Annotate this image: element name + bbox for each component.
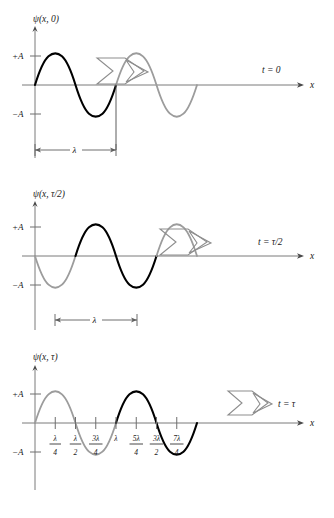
propagation-arrow-right bbox=[228, 391, 272, 415]
svg-text:4: 4 bbox=[175, 448, 179, 457]
svg-text:4: 4 bbox=[53, 448, 57, 457]
panel-2-time-label: t = τ bbox=[278, 399, 296, 409]
panel-2-x-tick-label-1: λ 2 bbox=[70, 434, 82, 457]
propagation-arrow-right bbox=[160, 229, 211, 255]
svg-text:2: 2 bbox=[155, 448, 159, 457]
svg-text:7λ: 7λ bbox=[173, 434, 181, 443]
svg-text:2: 2 bbox=[74, 448, 78, 457]
panel-1-y-axis-label: ψ(x, τ/2) bbox=[33, 189, 65, 200]
svg-text:λ: λ bbox=[53, 434, 58, 443]
panel-1-wavelength-label: λ bbox=[92, 315, 97, 325]
svg-text:λ: λ bbox=[113, 434, 118, 443]
panel-0-label-plus-a: +A bbox=[12, 51, 24, 61]
svg-text:3λ: 3λ bbox=[91, 434, 100, 443]
svg-text:5λ: 5λ bbox=[133, 434, 141, 443]
panel-2-label-minus-a: −A bbox=[12, 447, 24, 457]
panel-1-label-plus-a: +A bbox=[12, 222, 24, 232]
svg-text:3λ: 3λ bbox=[152, 434, 161, 443]
panel-0-wavelength-bracket: λ bbox=[35, 144, 116, 156]
panel-2-x-tick-label-4: 5λ 4 bbox=[130, 434, 144, 457]
panel-0-y-axis-label: ψ(x, 0) bbox=[33, 14, 59, 25]
panel-0-x-axis-label: x bbox=[309, 80, 315, 90]
panel-1-wave-leading bbox=[35, 256, 76, 288]
panel-0-time-label: t = 0 bbox=[262, 65, 281, 75]
panel-t-tau: ψ(x, τ) x +A −A bbox=[0, 345, 334, 518]
svg-text:4: 4 bbox=[134, 448, 138, 457]
panel-2-x-tick-label-0: λ 4 bbox=[50, 434, 62, 457]
panel-t-half-tau: ψ(x, τ/2) x +A −A λ bbox=[0, 175, 334, 345]
panel-t0: ψ(x, 0) x +A −A λ bbox=[0, 0, 334, 175]
panel-2-x-tick-label-3: λ bbox=[113, 434, 118, 443]
panel-1-time-label: t = τ/2 bbox=[258, 237, 283, 247]
panel-0-wavelength-label: λ bbox=[72, 145, 77, 155]
panel-1-wavelength-bracket: λ bbox=[55, 314, 137, 326]
panel-2-label-plus-a: +A bbox=[12, 389, 24, 399]
panel-1-x-axis-label: x bbox=[309, 251, 315, 261]
panel-1-label-minus-a: −A bbox=[12, 280, 24, 290]
svg-text:λ: λ bbox=[73, 434, 78, 443]
panel-2-x-axis-label: x bbox=[309, 418, 315, 428]
panel-0-label-minus-a: −A bbox=[12, 109, 24, 119]
propagation-arrow-right bbox=[97, 58, 148, 84]
panel-2-y-axis-label: ψ(x, τ) bbox=[33, 352, 58, 363]
wave-figure: ψ(x, 0) x +A −A λ bbox=[0, 0, 334, 518]
svg-text:4: 4 bbox=[94, 448, 98, 457]
